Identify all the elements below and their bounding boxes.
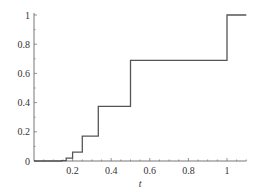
axis-labels: t	[139, 178, 142, 189]
ticks: 0.20.40.60.8100.20.40.60.81	[18, 10, 247, 177]
y-tick-label: 0.4	[18, 97, 31, 108]
y-tick-label: 0.8	[18, 39, 31, 50]
x-tick-label: 0.6	[144, 165, 157, 176]
x-axis-label: t	[139, 178, 142, 189]
axes	[34, 13, 246, 161]
x-tick-label: 1	[225, 165, 230, 176]
data-series	[34, 15, 246, 161]
x-tick-label: 0.2	[66, 165, 79, 176]
y-tick-label: 1	[25, 10, 30, 21]
y-tick-label: 0.2	[18, 126, 31, 137]
x-tick-label: 0.8	[182, 165, 195, 176]
x-tick-label: 0.4	[105, 165, 118, 176]
step-line	[34, 15, 246, 161]
y-tick-label: 0	[25, 156, 30, 167]
y-tick-label: 0.6	[18, 68, 31, 79]
step-function-chart: 0.20.40.60.8100.20.40.60.81 t	[0, 0, 260, 195]
